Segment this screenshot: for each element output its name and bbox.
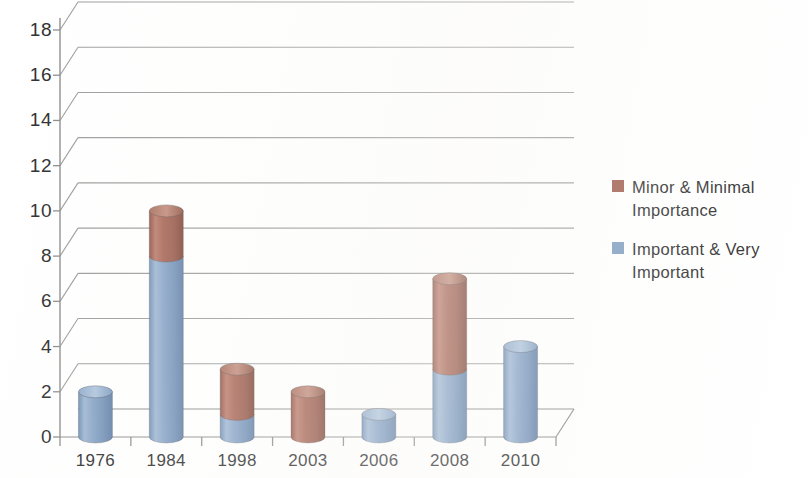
x-axis-label-1998: 1998 [202, 452, 273, 470]
bar-segment-minor-1998 [220, 363, 254, 420]
legend-label-minor-minimal: Minor & Minimal Importance [632, 176, 755, 222]
x-axis-label-1976: 1976 [60, 452, 131, 470]
legend-label-important-very-important: Important & Very Important [632, 238, 760, 284]
bar-segment-important-2008 [433, 369, 467, 443]
bar-segment-important-2010 [504, 341, 538, 443]
y-axis-tick-labels: 181614121086420 [0, 0, 52, 478]
bar-segment-important-1984 [149, 256, 183, 443]
legend-swatch-important-very-important-icon [612, 242, 624, 254]
legend-item-minor-minimal: Minor & Minimal Importance [612, 176, 808, 222]
legend-item-important-very-important: Important & Very Important [612, 238, 808, 284]
y-axis-label-2: 2 [8, 382, 52, 401]
bar-segment-minor-2008 [433, 273, 467, 375]
y-axis-label-14: 14 [8, 110, 52, 129]
y-axis-label-10: 10 [8, 201, 52, 220]
x-axis-label-1984: 1984 [131, 452, 202, 470]
bar-segment-important-1976 [78, 386, 112, 443]
y-axis-label-0: 0 [8, 427, 52, 446]
bar-series-group [78, 205, 537, 443]
x-axis-label-2010: 2010 [485, 452, 556, 470]
plot-area: 181614121086420 197619841998200320062008… [0, 0, 620, 478]
x-axis-label-2008: 2008 [414, 452, 485, 470]
y-axis-label-4: 4 [8, 337, 52, 356]
bar-segment-important-2006 [362, 408, 396, 443]
chart-container: 181614121086420 197619841998200320062008… [0, 0, 808, 478]
legend-swatch-minor-minimal-icon [612, 180, 624, 192]
y-axis-label-6: 6 [8, 291, 52, 310]
y-axis-label-12: 12 [8, 156, 52, 175]
y-axis-label-16: 16 [8, 65, 52, 84]
axis-depth-connectors [60, 2, 78, 392]
y-axis-label-8: 8 [8, 246, 52, 265]
bar-segment-minor-1984 [149, 205, 183, 262]
y-axis-label-18: 18 [8, 20, 52, 39]
chart-legend: Minor & Minimal Importance Important & V… [612, 176, 808, 300]
x-axis-label-2003: 2003 [273, 452, 344, 470]
bar-segment-minor-2003 [291, 386, 325, 443]
x-axis-label-2006: 2006 [343, 452, 414, 470]
y-axis [53, 18, 60, 437]
